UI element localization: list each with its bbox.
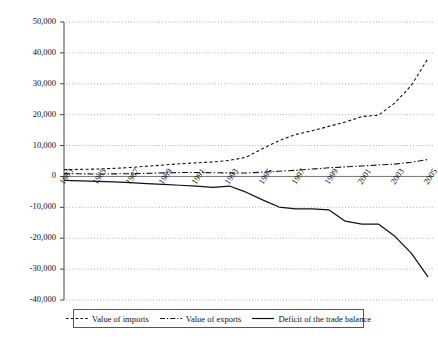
legend-label-deficit: Deficit of the trade balance (278, 314, 371, 324)
y-tick-label: 50,000 (14, 17, 56, 26)
y-tick-label: -30,000 (14, 264, 56, 273)
y-tick-label: 30,000 (14, 79, 56, 88)
series-line (64, 58, 428, 169)
legend-item-deficit: Deficit of the trade balance (252, 314, 371, 324)
y-tick-label: 20,000 (14, 110, 56, 119)
y-tick-label: -20,000 (14, 233, 56, 242)
legend-item-imports: Value of imports (66, 314, 149, 324)
legend-item-exports: Value of exports (160, 314, 242, 324)
y-tick-label: -40,000 (14, 295, 56, 304)
series-line (64, 180, 428, 276)
axis-lines (64, 22, 434, 300)
dashed-line-swatch (66, 315, 88, 322)
y-tick-label: 40,000 (14, 48, 56, 57)
gridlines (66, 22, 434, 300)
y-tick-label: 0 (14, 171, 56, 180)
axis-ticks (60, 22, 64, 300)
legend-label-exports: Value of exports (186, 314, 242, 324)
solid-line-swatch (252, 315, 274, 322)
trade-balance-line-chart: 50,00040,00030,00020,00010,0000-10,000-2… (0, 0, 438, 344)
y-tick-label: -10,000 (14, 202, 56, 211)
dash-dot-line-swatch (160, 315, 182, 322)
chart-legend: Value of imports Value of exports Defici… (73, 309, 364, 328)
y-tick-label: 10,000 (14, 141, 56, 150)
data-series (64, 58, 428, 276)
legend-label-imports: Value of imports (92, 314, 149, 324)
